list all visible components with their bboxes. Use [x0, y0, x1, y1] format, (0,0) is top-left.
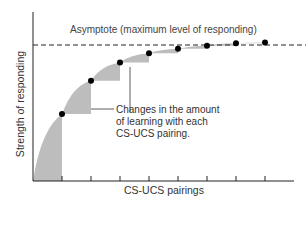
data-point: [88, 78, 94, 84]
data-point: [146, 50, 152, 56]
asymptote-label: Asymptote (maximum level of responding): [70, 24, 257, 35]
data-point: [262, 40, 268, 46]
data-point: [59, 111, 65, 117]
increment-annotation: Changes in the amount of learning with e…: [116, 104, 219, 140]
data-point: [204, 43, 210, 49]
increment-shade: [236, 43, 265, 44]
data-point: [175, 46, 181, 52]
data-point: [117, 59, 123, 65]
annotation-line-2: of learning with each: [116, 116, 219, 128]
annotation-line-1: Changes in the amount: [116, 104, 219, 116]
data-point: [233, 40, 239, 46]
increment-shade: [178, 46, 207, 49]
y-axis-label: Strength of responding: [14, 51, 26, 157]
increment-shade: [62, 81, 91, 114]
increment-shade: [91, 62, 120, 80]
increment-shade: [149, 49, 178, 54]
x-axis-ticks: [62, 176, 265, 181]
x-axis-label: CS-UCS pairings: [0, 184, 308, 196]
annotation-line-3: CS-UCS pairing.: [116, 128, 219, 140]
increment-shade: [120, 53, 149, 62]
increment-shade: [33, 114, 62, 181]
